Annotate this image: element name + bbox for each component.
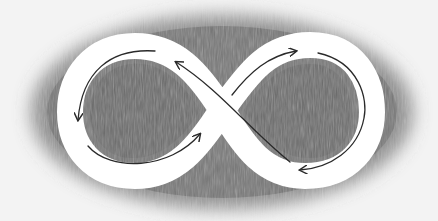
infinity-illustration (0, 0, 438, 221)
